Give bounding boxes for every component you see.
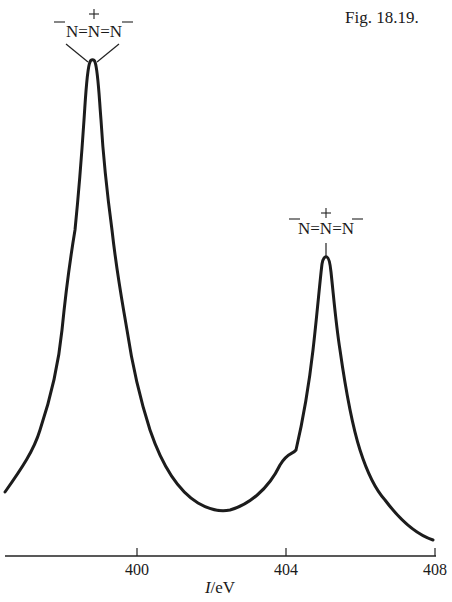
leader-left — [66, 44, 88, 62]
tick-label-404: 404 — [274, 561, 298, 579]
spectrum-chart — [0, 0, 452, 602]
spectrum-curve — [5, 60, 433, 540]
azide-label-peak1: N=N=N — [66, 22, 122, 42]
charge-marks-peak2 — [289, 208, 363, 219]
x-axis-label: I/eV — [205, 578, 235, 598]
charge-marks-peak1 — [54, 9, 133, 22]
azide-label-peak2: N=N=N — [298, 219, 354, 239]
tick-label-400: 400 — [125, 561, 149, 579]
tick-label-408: 408 — [423, 561, 447, 579]
leader-right — [97, 44, 119, 62]
